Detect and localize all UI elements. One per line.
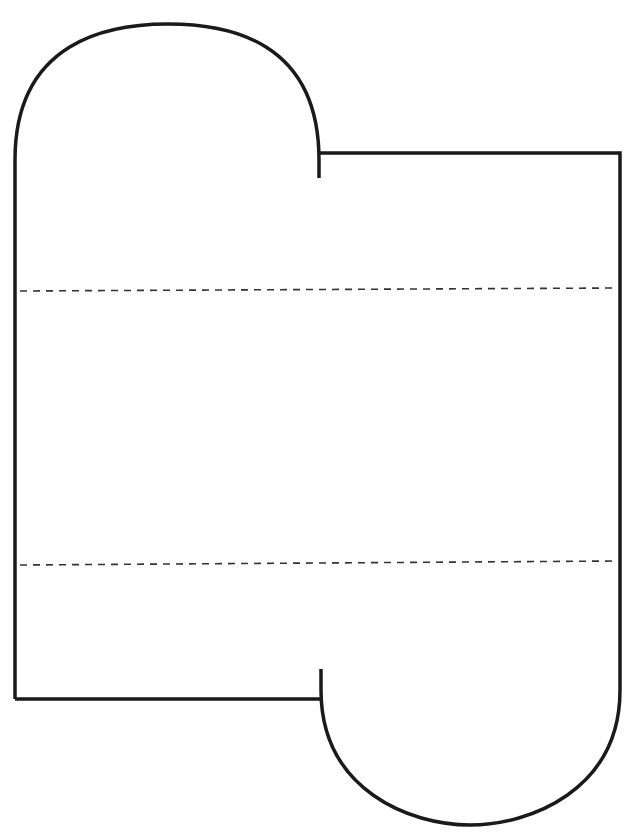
cutout-template-diagram	[0, 0, 632, 838]
lower-fold-line	[20, 561, 618, 565]
cut-outline	[15, 24, 620, 825]
upper-fold-line	[20, 288, 615, 291]
template-canvas	[0, 0, 632, 838]
